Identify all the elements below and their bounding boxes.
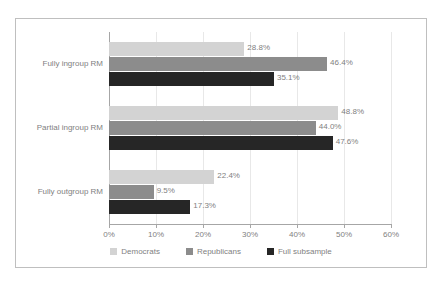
category-label: Fully outgroup RM: [38, 187, 103, 196]
bar-row: 47.6%: [109, 136, 391, 150]
category-group: Fully ingroup RM28.8%46.4%35.1%: [109, 42, 391, 87]
x-tick-mark: [250, 224, 251, 228]
category-label: Fully ingroup RM: [43, 59, 103, 68]
legend-label: Republicans: [197, 247, 241, 256]
bar-row: 46.4%: [109, 57, 391, 71]
gridline: [391, 32, 392, 224]
legend-item[interactable]: Republicans: [186, 247, 241, 256]
bar-full-subsample[interactable]: [109, 200, 190, 214]
bar-republicans[interactable]: [109, 57, 327, 71]
bar-full-subsample[interactable]: [109, 136, 333, 150]
legend-label: Full subsample: [278, 247, 332, 256]
x-tick-label: 30%: [242, 230, 258, 239]
bar-row: 22.4%: [109, 170, 391, 184]
legend-swatch-icon: [267, 248, 274, 255]
x-tick-mark: [391, 224, 392, 228]
bar-value-label: 46.4%: [330, 56, 353, 70]
x-tick-mark: [109, 224, 110, 228]
chart-frame: Fully ingroup RM28.8%46.4%35.1%Partial i…: [15, 18, 427, 268]
legend-item[interactable]: Democrats: [110, 247, 160, 256]
x-tick-label: 50%: [336, 230, 352, 239]
x-tick-mark: [344, 224, 345, 228]
chart-legend: DemocratsRepublicansFull subsample: [16, 247, 426, 256]
bar-democrats[interactable]: [109, 106, 338, 120]
legend-swatch-icon: [110, 248, 117, 255]
x-tick-label: 20%: [195, 230, 211, 239]
bar-value-label: 47.6%: [336, 135, 359, 149]
x-tick-label: 60%: [383, 230, 399, 239]
bar-value-label: 22.4%: [217, 169, 240, 183]
bar-row: 28.8%: [109, 42, 391, 56]
x-tick-mark: [156, 224, 157, 228]
bar-republicans[interactable]: [109, 121, 316, 135]
bar-row: 9.5%: [109, 185, 391, 199]
x-tick-mark: [297, 224, 298, 228]
x-tick-label: 40%: [289, 230, 305, 239]
bar-value-label: 48.8%: [341, 105, 364, 119]
x-tick-label: 0%: [103, 230, 115, 239]
bar-value-label: 17.3%: [193, 199, 216, 213]
bar-value-label: 44.0%: [319, 120, 342, 134]
bar-row: 44.0%: [109, 121, 391, 135]
legend-item[interactable]: Full subsample: [267, 247, 332, 256]
category-label: Partial ingroup RM: [37, 123, 103, 132]
category-group: Partial ingroup RM48.8%44.0%47.6%: [109, 106, 391, 151]
bar-democrats[interactable]: [109, 42, 244, 56]
legend-label: Democrats: [121, 247, 160, 256]
bar-value-label: 9.5%: [157, 184, 175, 198]
x-tick-label: 10%: [148, 230, 164, 239]
bar-row: 48.8%: [109, 106, 391, 120]
x-tick-mark: [203, 224, 204, 228]
bar-republicans[interactable]: [109, 185, 154, 199]
bar-full-subsample[interactable]: [109, 72, 274, 86]
plot-area: Fully ingroup RM28.8%46.4%35.1%Partial i…: [109, 32, 391, 224]
bar-value-label: 28.8%: [247, 41, 270, 55]
category-group: Fully outgroup RM22.4%9.5%17.3%: [109, 170, 391, 215]
bar-row: 35.1%: [109, 72, 391, 86]
bar-value-label: 35.1%: [277, 71, 300, 85]
legend-swatch-icon: [186, 248, 193, 255]
bar-democrats[interactable]: [109, 170, 214, 184]
bar-row: 17.3%: [109, 200, 391, 214]
